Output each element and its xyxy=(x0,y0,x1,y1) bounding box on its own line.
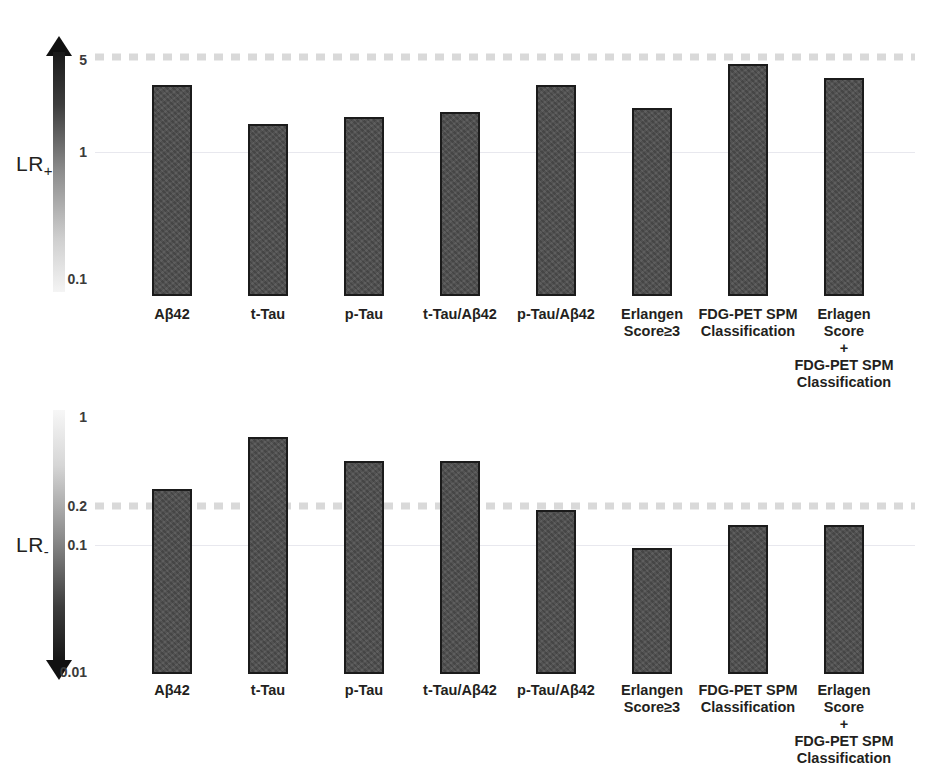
bar-lr-positive-combined[interactable] xyxy=(824,78,864,296)
lr-negative-axis-label: LR- xyxy=(16,533,49,560)
ytick-lr-negative-0.1: 0.1 xyxy=(68,537,87,553)
arrow-shaft-gradient xyxy=(53,410,65,662)
lr-positive-plot-area: 5 1 0.1 xyxy=(95,40,915,298)
lr-negative-panel: LR- 1 0.2 0.1 0.01 xyxy=(0,392,925,784)
xlabel-line: Score xyxy=(784,323,904,340)
arrow-shaft-gradient xyxy=(53,52,65,292)
bar-lr-negative-combined[interactable] xyxy=(824,525,864,674)
bar-lr-positive-fdg-pet-spm[interactable] xyxy=(728,64,768,296)
lr-positive-bars xyxy=(95,40,915,298)
lr-negative-bars xyxy=(95,408,915,676)
bar-lr-negative-fdg-pet-spm[interactable] xyxy=(728,525,768,674)
ytick-lr-negative-1: 1 xyxy=(79,409,87,425)
bar-lr-positive-p-tau-abeta42[interactable] xyxy=(536,85,576,296)
xlabel-line: Classification xyxy=(784,750,904,767)
lr-negative-axis-label-base: LR xyxy=(16,533,44,556)
bar-lr-negative-abeta42[interactable] xyxy=(152,489,192,674)
lr-negative-axis-label-sub: - xyxy=(44,543,50,560)
bar-lr-positive-t-tau-abeta42[interactable] xyxy=(440,112,480,296)
bar-lr-negative-p-tau-abeta42[interactable] xyxy=(536,510,576,674)
lr-positive-axis-label-base: LR xyxy=(16,152,44,175)
bar-lr-negative-erlangen-score[interactable] xyxy=(632,548,672,674)
xlabel-line: FDG-PET SPM xyxy=(784,357,904,374)
xlabel-bottom-combined: Erlagen Score + FDG-PET SPM Classificati… xyxy=(784,682,904,767)
xlabel-top-combined: Erlagen Score + FDG-PET SPM Classificati… xyxy=(784,306,904,391)
bar-lr-positive-erlangen-score[interactable] xyxy=(632,108,672,296)
likelihood-ratio-figure: LR+ 5 1 0.1 Aβ42 xyxy=(0,0,925,784)
bar-lr-negative-p-tau[interactable] xyxy=(344,461,384,674)
bar-lr-positive-p-tau[interactable] xyxy=(344,117,384,296)
xlabel-line: Classification xyxy=(784,374,904,391)
ytick-lr-positive-5: 5 xyxy=(79,52,87,68)
ytick-lr-positive-1: 1 xyxy=(79,144,87,160)
ytick-lr-negative-0.2: 0.2 xyxy=(68,498,87,514)
xlabel-line: Erlagen xyxy=(784,306,904,323)
lr-positive-axis-label: LR+ xyxy=(16,152,53,179)
xlabel-line: Erlagen xyxy=(784,682,904,699)
xlabel-line: FDG-PET SPM xyxy=(784,733,904,750)
lr-positive-panel: LR+ 5 1 0.1 Aβ42 xyxy=(0,0,925,400)
xlabel-line: + xyxy=(784,716,904,733)
xlabel-line: Score xyxy=(784,699,904,716)
ytick-lr-negative-0.01: 0.01 xyxy=(60,664,87,680)
bar-lr-negative-t-tau[interactable] xyxy=(248,437,288,674)
ytick-lr-positive-0.1: 0.1 xyxy=(68,271,87,287)
xlabel-line: + xyxy=(784,340,904,357)
bar-lr-positive-abeta42[interactable] xyxy=(152,85,192,296)
bar-lr-negative-t-tau-abeta42[interactable] xyxy=(440,461,480,674)
bar-lr-positive-t-tau[interactable] xyxy=(248,124,288,296)
lr-negative-plot-area: 1 0.2 0.1 0.01 xyxy=(95,408,915,676)
lr-positive-axis-label-sub: + xyxy=(44,162,53,179)
